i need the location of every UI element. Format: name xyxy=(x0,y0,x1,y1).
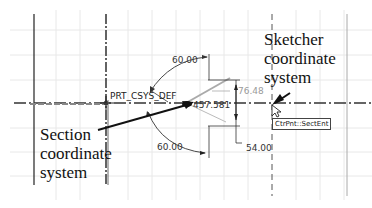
mouse-pointer-icon xyxy=(271,104,281,118)
callout-line: Sketcher xyxy=(264,30,336,49)
callout-line: system xyxy=(264,68,336,87)
angle-dimension-bottom[interactable]: 60.00 xyxy=(157,142,183,152)
angle-dimension-top[interactable]: 60.00 xyxy=(172,55,198,65)
vertical-dimension[interactable]: 54.00 xyxy=(246,143,272,153)
sketcher-csys-callout: Sketcher coordinate system xyxy=(264,30,336,87)
coordinate-readout: 457.581 xyxy=(193,100,230,110)
callout-line: system xyxy=(40,163,112,182)
horizontal-dimension-grey[interactable]: 76.48 xyxy=(238,86,264,96)
callout-line: coordinate xyxy=(40,144,112,163)
callout-line: Section xyxy=(40,125,112,144)
csys-name-label[interactable]: PRT_CSYS_DEF xyxy=(110,91,177,101)
callout-line: coordinate xyxy=(264,49,336,68)
section-csys-callout: Section coordinate system xyxy=(40,125,112,182)
snap-tooltip: CtrPnt::SectEnt xyxy=(272,118,331,130)
origin-marker[interactable] xyxy=(182,101,192,107)
sketcher-canvas[interactable]: PRT_CSYS_DEF 60.00 76.48 457.581 60.00 5… xyxy=(0,0,372,208)
